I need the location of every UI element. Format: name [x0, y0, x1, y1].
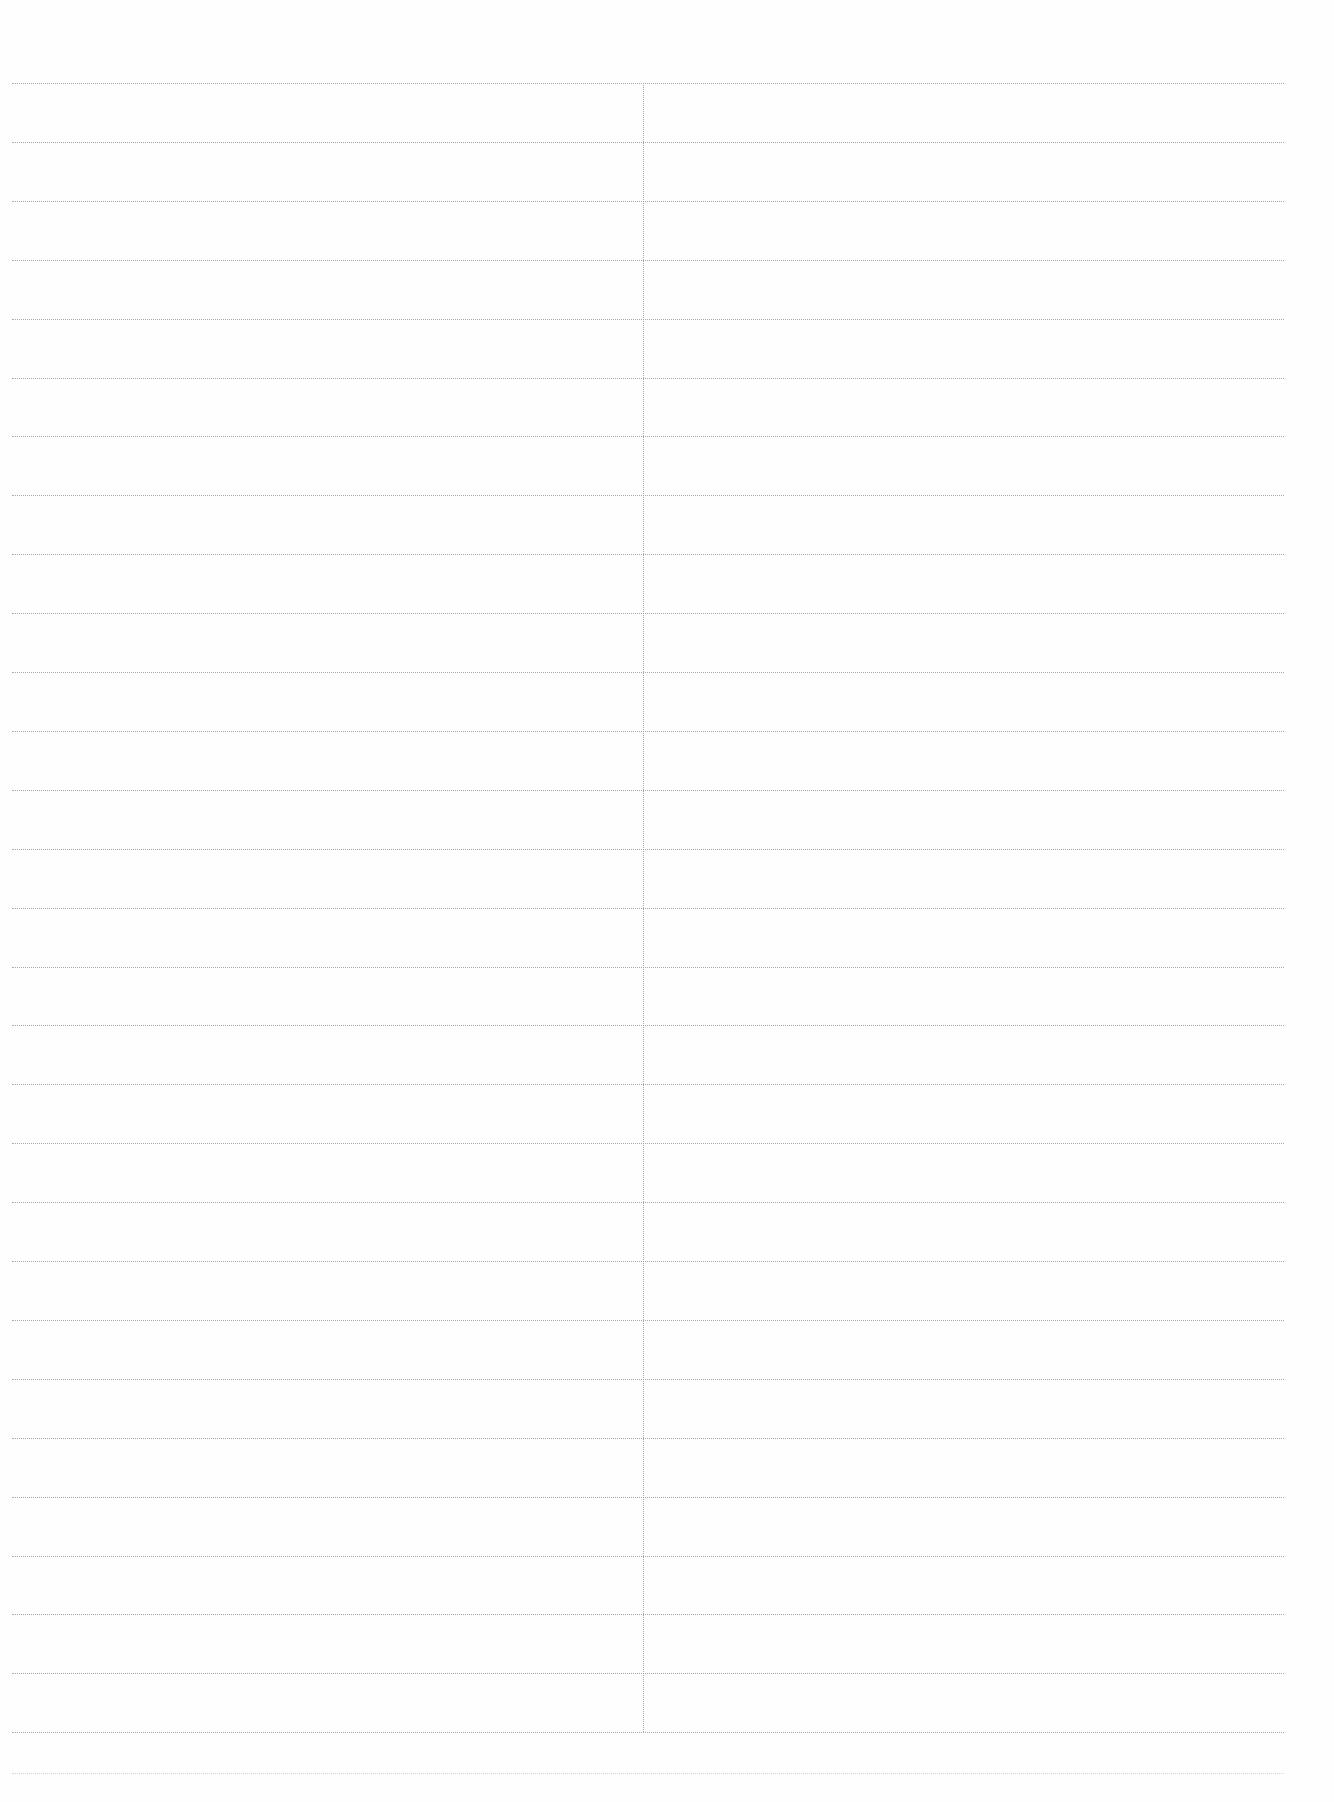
ruled-line: [12, 1379, 1284, 1380]
ruled-line: [12, 1025, 1284, 1026]
ruled-line: [12, 1261, 1284, 1262]
ruled-line: [12, 83, 1284, 84]
ruled-line: [12, 967, 1284, 968]
ruled-line: [12, 436, 1284, 437]
column-divider: [643, 83, 644, 1732]
ruled-line: [12, 1084, 1284, 1085]
ruled-line: [12, 1438, 1284, 1439]
ruled-line: [12, 260, 1284, 261]
ruled-line: [12, 1202, 1284, 1203]
ruled-line: [12, 1143, 1284, 1144]
ruled-line: [12, 495, 1284, 496]
ruled-line: [12, 201, 1284, 202]
ruled-line: [12, 1320, 1284, 1321]
ruled-line: [12, 1673, 1284, 1674]
ruled-line: [12, 554, 1284, 555]
ruled-line: [12, 142, 1284, 143]
ruled-sheet: [0, 0, 1334, 1802]
ruled-line: [12, 319, 1284, 320]
ruled-line: [12, 1497, 1284, 1498]
ruled-line: [12, 378, 1284, 379]
bottom-faint-rule: [12, 1773, 1284, 1774]
ruled-line: [12, 1556, 1284, 1557]
ruled-line: [12, 731, 1284, 732]
ruled-line: [12, 1732, 1284, 1733]
ruled-line: [12, 849, 1284, 850]
ruled-line: [12, 1614, 1284, 1615]
ruled-line: [12, 790, 1284, 791]
ruled-line: [12, 672, 1284, 673]
ruled-line: [12, 908, 1284, 909]
ruled-line: [12, 613, 1284, 614]
